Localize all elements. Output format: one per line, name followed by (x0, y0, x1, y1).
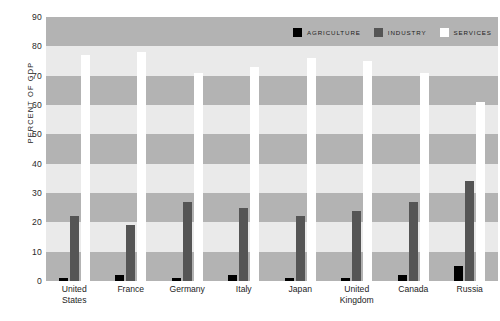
bar-services (420, 73, 429, 281)
bar-group (442, 17, 499, 281)
y-axis-tick-label: 50 (16, 129, 42, 139)
x-axis-tick-label-line: United (46, 284, 103, 295)
x-axis-tick-label-line: Kingdom (329, 295, 386, 306)
bar-agriculture (398, 275, 407, 281)
bar-services (250, 67, 259, 281)
y-axis-tick-label: 20 (16, 217, 42, 227)
bar-group (385, 17, 442, 281)
bar-services (476, 102, 485, 281)
bar-industry (409, 202, 418, 281)
x-axis-tick-label: Italy (216, 284, 273, 295)
x-axis-tick-label: Germany (159, 284, 216, 295)
x-axis-tick-label-line: Canada (385, 284, 442, 295)
y-axis-tick-label: 70 (16, 71, 42, 81)
legend-item: SERVICES (440, 28, 492, 37)
bar-group (46, 17, 103, 281)
bar-industry (465, 181, 474, 281)
x-axis-tick-label: Canada (385, 284, 442, 295)
y-axis-tick-labels: 0102030405060708090 (16, 17, 42, 281)
bar-agriculture (454, 266, 463, 281)
y-axis-tick-label: 10 (16, 247, 42, 257)
x-axis-tick-labels: UnitedStatesFranceGermanyItalyJapanUnite… (46, 284, 498, 320)
legend-label: INDUSTRY (388, 29, 427, 36)
bar-services (194, 73, 203, 281)
x-axis-tick-label-line: States (46, 295, 103, 306)
bar-group (103, 17, 160, 281)
bar-services (307, 58, 316, 281)
gdp-sector-bar-chart: PERCENT OF GDP 0102030405060708090 AGRIC… (0, 0, 500, 321)
bars-layer (46, 17, 498, 281)
legend-swatch-icon (293, 28, 302, 37)
y-axis-tick-label: 90 (16, 12, 42, 22)
x-axis-tick-label-line: Italy (216, 284, 273, 295)
x-axis-tick-label: UnitedKingdom (329, 284, 386, 307)
bar-agriculture (228, 275, 237, 281)
bar-agriculture (115, 275, 124, 281)
bar-agriculture (285, 278, 294, 281)
x-axis-tick-label-line: United (329, 284, 386, 295)
x-axis-tick-label-line: Germany (159, 284, 216, 295)
bar-industry (70, 216, 79, 281)
x-axis-tick-label-line: Japan (272, 284, 329, 295)
bar-group (159, 17, 216, 281)
x-axis-tick-label: UnitedStates (46, 284, 103, 307)
plot-area (46, 17, 498, 281)
chart-legend: AGRICULTUREINDUSTRYSERVICES (286, 24, 499, 41)
bar-agriculture (59, 278, 68, 281)
x-axis-tick-label-line: Russia (442, 284, 499, 295)
legend-item: INDUSTRY (374, 28, 427, 37)
legend-item: AGRICULTURE (293, 28, 361, 37)
bar-agriculture (172, 278, 181, 281)
bar-group (216, 17, 273, 281)
bar-industry (126, 225, 135, 281)
y-axis-tick-label: 40 (16, 159, 42, 169)
y-axis-tick-label: 60 (16, 100, 42, 110)
x-axis-tick-label: Japan (272, 284, 329, 295)
bar-industry (183, 202, 192, 281)
bar-services (363, 61, 372, 281)
bar-services (137, 52, 146, 281)
legend-swatch-icon (440, 28, 449, 37)
y-axis-tick-label: 80 (16, 41, 42, 51)
bar-agriculture (341, 278, 350, 281)
bar-industry (239, 208, 248, 281)
x-axis-tick-label: Russia (442, 284, 499, 295)
legend-label: AGRICULTURE (307, 29, 361, 36)
bar-industry (352, 211, 361, 281)
bar-group (329, 17, 386, 281)
y-axis-tick-label: 0 (16, 276, 42, 286)
x-axis-tick-label-line: France (103, 284, 160, 295)
bar-industry (296, 216, 305, 281)
x-axis-tick-label: France (103, 284, 160, 295)
legend-label: SERVICES (454, 29, 492, 36)
legend-swatch-icon (374, 28, 383, 37)
y-axis-tick-label: 30 (16, 188, 42, 198)
bar-group (272, 17, 329, 281)
bar-services (81, 55, 90, 281)
